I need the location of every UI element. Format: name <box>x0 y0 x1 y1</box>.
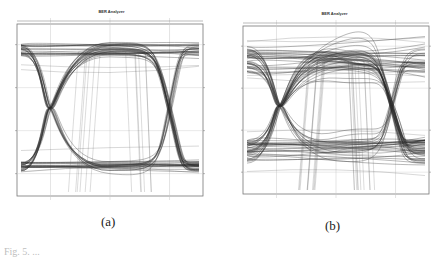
eye-diagram-b <box>241 20 431 198</box>
eye-diagram-a <box>15 18 205 200</box>
figure-caption: Fig. 5. ... <box>4 246 40 257</box>
